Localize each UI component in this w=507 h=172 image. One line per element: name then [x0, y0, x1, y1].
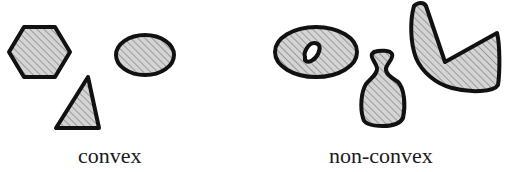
v-shape: [411, 3, 499, 91]
ellipse-shape: [116, 35, 174, 75]
convex-label: convex: [78, 143, 142, 169]
triangle-shape: [56, 77, 99, 128]
ellipse-with-hole-shape: [275, 27, 357, 77]
vase-shape: [361, 51, 404, 126]
convex-shapes: [9, 27, 174, 128]
non-convex-label: non-convex: [329, 143, 433, 169]
non-convex-shapes: [275, 3, 499, 126]
hexagon-shape: [9, 27, 70, 77]
